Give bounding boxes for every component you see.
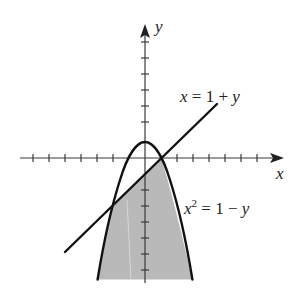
eq1-op: + [218, 87, 228, 106]
eq1-equals: = [192, 87, 202, 106]
x-axis [20, 154, 278, 162]
eq2-equals: = [201, 199, 211, 218]
eq2-var: y [242, 199, 250, 218]
eq1-const: 1 [206, 87, 215, 106]
eq2-const: 1 [215, 199, 224, 218]
eq2-op: − [228, 199, 238, 218]
x-axis-label: x [276, 165, 284, 182]
graph-canvas [0, 0, 302, 303]
eq2-lhs: x [184, 199, 192, 218]
eq1-lhs: x [180, 87, 188, 106]
eq2-exponent: 2 [192, 197, 198, 209]
parabola-equation-label: x2 = 1 − y [184, 200, 249, 217]
y-axis-label: y [155, 18, 163, 35]
graph-figure: y x x = 1 + y x2 = 1 − y [0, 0, 302, 303]
eq1-var: y [232, 87, 240, 106]
line-equation-label: x = 1 + y [180, 88, 240, 105]
